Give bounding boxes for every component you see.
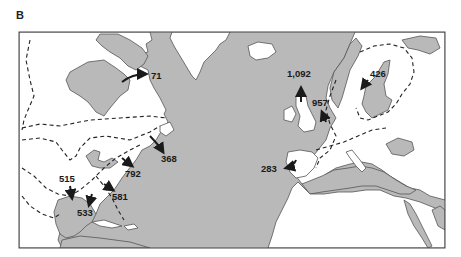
north-atlantic-map: 71 368 792 581 515 533 1,092 957 426 283 xyxy=(0,0,461,257)
count-label-957: 957 xyxy=(312,97,328,108)
count-label-368: 368 xyxy=(161,153,177,164)
count-label-533: 533 xyxy=(77,207,93,218)
count-label-1092: 1,092 xyxy=(287,68,311,79)
count-label-581: 581 xyxy=(112,191,129,202)
count-label-792: 792 xyxy=(125,168,141,179)
count-label-515: 515 xyxy=(59,173,76,184)
count-label-426: 426 xyxy=(370,68,386,79)
count-label-283: 283 xyxy=(261,163,277,174)
count-label-71: 71 xyxy=(151,70,162,81)
